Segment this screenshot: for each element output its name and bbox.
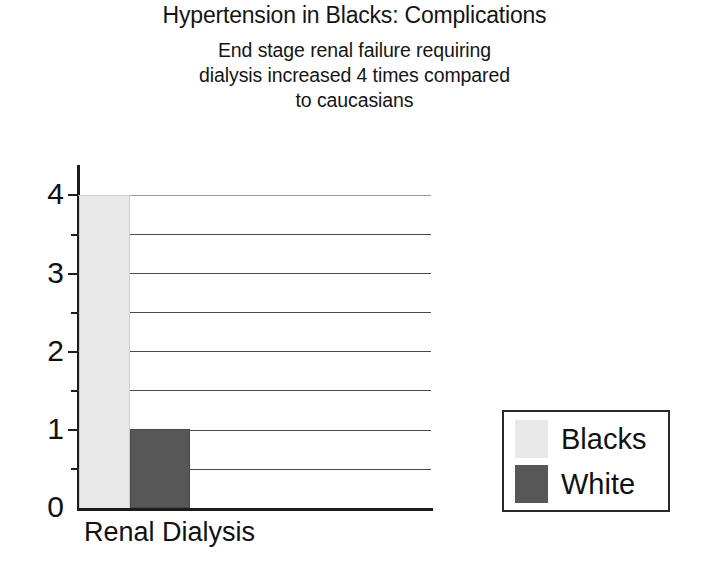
chart-subtitle-line-3: to caucasians <box>0 88 709 113</box>
legend-item-blacks: Blacks <box>515 420 646 458</box>
chart-title: Hypertension in Blacks: Complications <box>0 0 709 30</box>
gridline-2-0 <box>78 351 431 352</box>
bar-white <box>130 429 190 508</box>
chart-figure: Hypertension in Blacks: Complications En… <box>0 0 709 572</box>
plot-area <box>78 195 431 508</box>
y-tick-label-3: 3 <box>18 258 64 288</box>
chart-legend: Blacks White <box>502 410 670 512</box>
y-tick-label-1: 1 <box>18 414 64 444</box>
chart-subtitle-line-2: dialysis increased 4 times compared <box>0 63 709 88</box>
gridline-4-0 <box>78 195 431 196</box>
y-axis-tick-labels: 4 3 2 1 0 <box>12 0 64 572</box>
gridline-3-5 <box>78 234 431 235</box>
gridline-2-5 <box>78 312 431 313</box>
x-axis-baseline <box>77 508 433 511</box>
bar-blacks <box>79 195 130 508</box>
x-axis-label: Renal Dialysis <box>84 515 255 549</box>
y-tick-label-2: 2 <box>18 336 64 366</box>
chart-subtitle-line-1: End stage renal failure requiring <box>0 38 709 63</box>
legend-swatch-white <box>515 465 548 503</box>
y-tick-label-4: 4 <box>18 179 64 209</box>
gridline-1-5 <box>78 390 431 391</box>
legend-label-blacks: Blacks <box>561 424 646 454</box>
chart-subtitle: End stage renal failure requiring dialys… <box>0 38 709 113</box>
title-block: Hypertension in Blacks: Complications En… <box>0 0 709 113</box>
legend-swatch-blacks <box>515 420 548 458</box>
legend-label-white: White <box>561 469 635 499</box>
legend-item-white: White <box>515 465 635 503</box>
gridline-3-0 <box>78 273 431 274</box>
y-tick-label-0: 0 <box>18 492 64 522</box>
